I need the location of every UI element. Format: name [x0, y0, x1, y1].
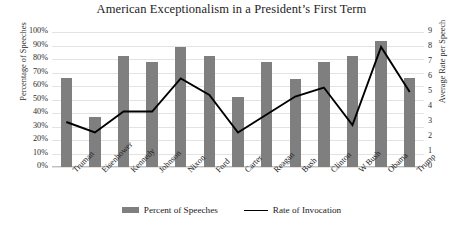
x-tick-label: W Bush	[357, 168, 363, 174]
y-tick-left: 60%	[18, 80, 48, 90]
y-tick-right: 3	[428, 116, 458, 126]
y-tick-left: 10%	[18, 148, 48, 158]
x-tick-label: Kennedy	[129, 168, 135, 174]
legend-item-rate-of-invocation: Rate of Invocation	[244, 205, 341, 215]
y-tick-left: 40%	[18, 107, 48, 117]
x-tick-label: Clinton	[329, 168, 335, 174]
chart-legend: Percent of Speeches Rate of Invocation	[0, 205, 463, 215]
y-tick-left: 20%	[18, 134, 48, 144]
line-swatch-icon	[244, 210, 268, 211]
x-tick-label: Obama	[386, 168, 392, 174]
line-series	[52, 32, 424, 167]
legend-label: Rate of Invocation	[273, 205, 341, 215]
y-tick-left: 80%	[18, 53, 48, 63]
x-tick-label: Bush	[300, 168, 306, 174]
y-tick-left: 90%	[18, 40, 48, 50]
x-tick-label: Reagan	[272, 168, 278, 174]
chart-container: American Exceptionalism in a President’s…	[0, 0, 463, 233]
y-tick-left: 0%	[18, 161, 48, 171]
legend-item-percent-of-speeches: Percent of Speeches	[122, 205, 218, 215]
y-tick-right: 4	[428, 101, 458, 111]
y-tick-right: 8	[428, 41, 458, 51]
x-tick-label: Carter	[243, 168, 249, 174]
y-tick-left: 30%	[18, 121, 48, 131]
y-tick-right: 9	[428, 26, 458, 36]
y-tick-right: 7	[428, 56, 458, 66]
y-tick-left: 50%	[18, 94, 48, 104]
x-tick-label: Johnson	[157, 168, 163, 174]
bar-swatch-icon	[122, 207, 139, 213]
x-tick-label: Nixon	[186, 168, 192, 174]
x-tick-label: Trump	[415, 168, 421, 174]
x-tick-label: Ford	[214, 168, 220, 174]
rate-of-invocation-line	[66, 47, 409, 133]
chart-title: American Exceptionalism in a President’s…	[0, 2, 463, 17]
plot-area	[52, 32, 424, 167]
y-tick-left: 70%	[18, 67, 48, 77]
legend-label: Percent of Speeches	[144, 205, 218, 215]
x-tick-label: Eisenhower	[100, 168, 106, 174]
y-tick-left: 100%	[18, 26, 48, 36]
y-tick-right: 2	[428, 131, 458, 141]
y-tick-right: 5	[428, 86, 458, 96]
y-tick-right: 6	[428, 71, 458, 81]
x-tick-label: Truman	[71, 168, 77, 174]
